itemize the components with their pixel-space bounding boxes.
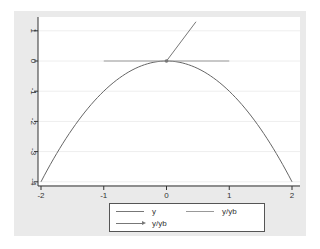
legend-line-icon [186, 211, 214, 212]
x-tick-label: -2 [37, 191, 45, 200]
y-tick-label: -4 [29, 178, 38, 186]
x-tick-label: 0 [164, 191, 169, 200]
legend-item-y: y [116, 207, 156, 216]
x-tick-label: -1 [100, 191, 108, 200]
x-tick-label: 2 [290, 191, 295, 200]
y-tick-label: 1 [29, 29, 38, 34]
legend-label: y [152, 207, 156, 216]
legend-line-icon [116, 211, 144, 212]
plot-area [38, 17, 300, 185]
y-tick-label: -3 [29, 148, 38, 156]
legend-label: y/yb [222, 207, 237, 216]
legend: y y/yb y/yb [109, 203, 265, 232]
legend-item-y-yb-arrow: y/yb [116, 219, 167, 228]
x-tick-label: 1 [227, 191, 232, 200]
legend-item-y-yb-line: y/yb [186, 207, 237, 216]
y-tick-label: -2 [29, 118, 38, 126]
legend-label: y/yb [152, 219, 167, 228]
y-tick-label: -1 [29, 88, 38, 96]
arrow-origin-marker [165, 59, 169, 63]
y-tick-label: 0 [29, 59, 38, 64]
legend-arrow-icon [116, 223, 144, 224]
